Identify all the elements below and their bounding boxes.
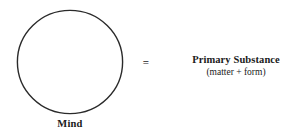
mind-circle-node [16, 9, 124, 115]
diagram-canvas: Mind = Primary Substance (matter + form) [0, 0, 298, 140]
primary-substance-title: Primary Substance [183, 54, 289, 66]
equals-sign-icon: = [138, 55, 154, 69]
mind-label: Mind [16, 118, 124, 130]
circle-outline-icon [16, 9, 124, 115]
primary-substance-node: Primary Substance (matter + form) [183, 54, 289, 78]
primary-substance-subtitle: (matter + form) [183, 67, 289, 78]
